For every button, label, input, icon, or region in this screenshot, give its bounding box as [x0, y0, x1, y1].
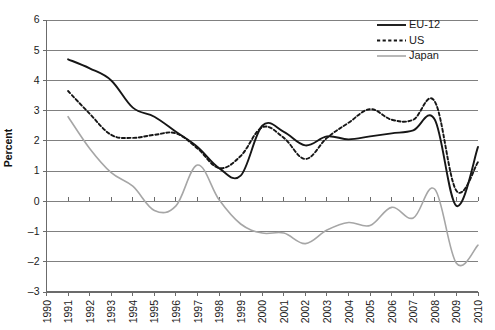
x-tick-label: 1992	[84, 300, 96, 324]
x-tick-label: 2009	[450, 300, 462, 324]
x-tick-label: 2004	[343, 300, 355, 324]
x-tick-label: 2007	[407, 300, 419, 324]
y-axis-title: Percent	[2, 128, 14, 167]
x-tick-label: 2003	[321, 300, 333, 324]
y-tick-label: 3	[34, 104, 40, 116]
y-tick-label: –2	[28, 255, 40, 267]
x-tick-label: 1991	[62, 300, 74, 324]
y-tick-label: 0	[34, 195, 40, 207]
x-tick-label: 2000	[256, 300, 268, 324]
x-tick-label: 2008	[429, 300, 441, 324]
x-tick-label: 1995	[148, 300, 160, 324]
x-tick-label: 2002	[299, 300, 311, 324]
y-tick-label: 2	[34, 134, 40, 146]
legend-label-us: US	[409, 34, 424, 46]
legend-label-japan: Japan	[409, 49, 439, 61]
x-tick-label: 1999	[235, 300, 247, 324]
y-tick-label: 4	[34, 74, 40, 86]
line-chart: 6543210–1–2–3 19901991199219931994199519…	[0, 0, 495, 330]
y-tick-label: 6	[34, 13, 40, 25]
y-tick-label: –1	[28, 225, 40, 237]
x-tick-label: 1990	[41, 300, 53, 324]
x-tick-label: 1998	[213, 300, 225, 324]
y-tick-label: 1	[34, 164, 40, 176]
y-tick-label: –3	[28, 285, 40, 297]
x-tick-label: 2006	[386, 300, 398, 324]
x-tick-label: 2001	[278, 300, 290, 324]
y-tick-label: 5	[34, 44, 40, 56]
x-tick-label: 2010	[472, 300, 484, 324]
chart-figure: 6543210–1–2–3 19901991199219931994199519…	[0, 0, 495, 330]
legend-label-eu-12: EU-12	[409, 18, 440, 30]
x-tick-label: 1993	[105, 300, 117, 324]
x-tick-labels-group: 1990199119921993199419951996199719981999…	[41, 300, 485, 324]
x-tick-label: 1996	[170, 300, 182, 324]
x-tick-label: 2005	[364, 300, 376, 324]
x-tick-label: 1997	[192, 300, 204, 324]
x-tick-label: 1994	[127, 300, 139, 324]
